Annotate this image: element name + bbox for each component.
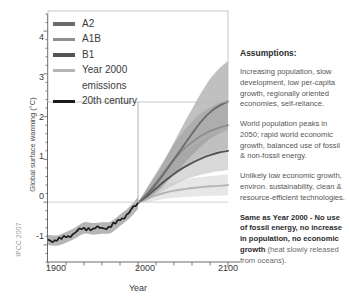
legend-swatch-year2000	[53, 69, 75, 73]
legend-label-year2000: Year 2000	[82, 65, 127, 75]
legend-item-20th-century[interactable]: 20th century	[53, 94, 173, 110]
legend-label-year2000-line2: emissions	[82, 78, 173, 94]
legend-label-a2: A2	[82, 19, 94, 29]
assumption-text-a2: Increasing population, slow development,…	[240, 67, 335, 108]
assumptions-panel: Assumptions: Increasing population, slow…	[240, 48, 346, 276]
climate-projection-figure: IPCC 2007 Global surface warming (°C) 4 …	[0, 0, 349, 307]
assumption-paragraph-b1: Unlikely low economic growth, environ. s…	[240, 171, 346, 203]
assumption-text-b1: Unlikely low economic growth, environ. s…	[240, 171, 345, 202]
legend-item-a2[interactable]: A2	[53, 16, 173, 32]
chart-legend: A2 A1B B1 Year 2000 emissions 20th centu…	[53, 16, 173, 109]
assumption-paragraph-year2000: Same as Year 2000 - No use of fossil ene…	[240, 213, 346, 267]
legend-item-b1[interactable]: B1	[53, 47, 173, 63]
legend-swatch-a1b	[53, 38, 75, 42]
assumption-paragraph-a1b: World population peaks in 2050; rapid wo…	[240, 119, 346, 162]
legend-swatch-20th-century	[53, 100, 75, 104]
legend-item-year2000[interactable]: Year 2000	[53, 63, 173, 79]
legend-swatch-b1	[53, 53, 75, 57]
assumptions-heading: Assumptions:	[240, 48, 346, 58]
legend-label-a1b: A1B	[82, 34, 101, 44]
legend-swatch-a2	[53, 22, 75, 26]
legend-label-b1: B1	[82, 50, 94, 60]
legend-item-a1b[interactable]: A1B	[53, 32, 173, 48]
legend-label-20th-century: 20th century	[82, 96, 137, 106]
assumption-paragraph-a2: Increasing population, slow development,…	[240, 67, 346, 110]
assumption-text-a1b: World population peaks in 2050; rapid wo…	[240, 119, 340, 160]
